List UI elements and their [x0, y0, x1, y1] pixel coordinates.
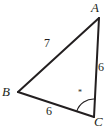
vertex-label-c: C: [94, 115, 103, 128]
side-length-label-ac: 6: [98, 61, 104, 73]
vertex-label-a: A: [91, 1, 99, 14]
side-ab-line: [18, 18, 99, 92]
angle-c-asterisk-marker: *: [78, 89, 82, 97]
triangle-svg: [0, 0, 112, 128]
side-bc-line: [18, 92, 94, 117]
geometry-figure: A B C 7 6 6 *: [0, 0, 112, 128]
vertex-label-b: B: [2, 85, 10, 98]
side-length-label-bc: 6: [46, 105, 52, 117]
angle-c-arc: [77, 99, 95, 111]
side-length-label-ab: 7: [44, 37, 50, 49]
